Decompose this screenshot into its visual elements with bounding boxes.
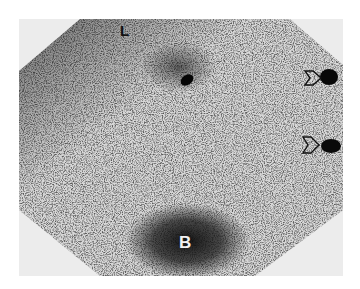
right-upper-hotspot [320,69,338,85]
label-l: L [120,22,129,39]
right-middle-hotspot [321,139,341,153]
scan-photo: L B [19,19,343,276]
label-b: B [179,233,191,253]
upper-halo [141,41,217,93]
